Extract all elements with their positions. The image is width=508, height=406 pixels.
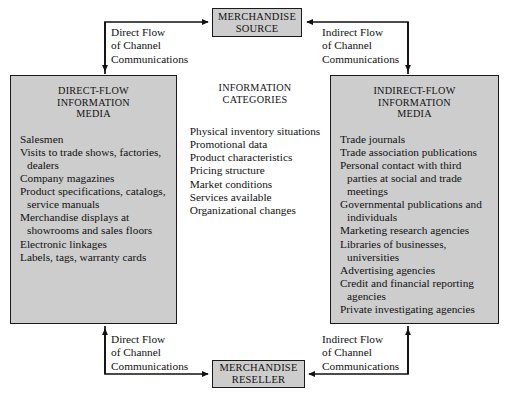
panel-direct-flow-information-media[interactable]: DIRECT-FLOW INFORMATION MEDIA Salesmen V… [10,75,177,324]
merchandise-source-line2: SOURCE [218,23,296,35]
flow-label-bottom-right: Indirect Flow of Channel Communications [322,333,399,373]
indirect-flow-media-list: Trade journals Trade association publica… [331,133,498,316]
flow-label-top-left: Direct Flow of Channel Communications [111,26,188,66]
panel-information-categories: INFORMATION CATEGORIES Physical inventor… [180,82,330,218]
list-item: Market conditions [190,178,321,191]
information-categories-list: Physical inventory situations Promotiona… [190,125,321,217]
panel-indirect-flow-information-media[interactable]: INDIRECT-FLOW INFORMATION MEDIA Trade jo… [330,75,499,324]
direct-flow-heading-line1: DIRECT-FLOW [11,85,176,97]
information-categories-heading-line1: INFORMATION [180,82,330,94]
list-item: Promotional data [190,138,321,151]
indirect-flow-heading: INDIRECT-FLOW INFORMATION MEDIA [331,85,498,120]
list-item: Marketing research agencies [340,224,492,237]
list-item: Private investigating agencies [340,303,492,316]
list-item: Physical inventory situations [190,125,321,138]
list-item: Electronic linkages [20,238,170,251]
list-item: Organizational changes [190,204,321,217]
merchandise-reseller-line1: MERCHANDISE [219,362,297,374]
list-item: Trade association publications [340,146,492,159]
information-categories-heading-line2: CATEGORIES [180,94,330,106]
direct-flow-heading-line3: MEDIA [11,108,176,120]
direct-flow-heading: DIRECT-FLOW INFORMATION MEDIA [11,85,176,120]
indirect-flow-heading-line2: INFORMATION [331,97,498,109]
list-item: Trade journals [340,133,492,146]
figure-caption [0,397,508,406]
list-item: Personal contact with third parties at s… [340,159,492,198]
diagram-canvas: MERCHANDISE SOURCE DIRECT-FLOW INFORMATI… [0,0,508,406]
list-item: Product characteristics [190,151,321,164]
list-item: Advertising agencies [340,264,492,277]
list-item: Credit and financial reporting agencies [340,277,492,303]
list-item: Services available [190,191,321,204]
flow-label-bottom-left: Direct Flow of Channel Communications [111,333,188,373]
direct-flow-media-list: Salesmen Visits to trade shows, factorie… [11,133,176,264]
merchandise-reseller-line2: RESELLER [219,374,297,386]
node-merchandise-source[interactable]: MERCHANDISE SOURCE [212,8,302,37]
list-item: Libraries of businesses, universities [340,238,492,264]
list-item: Pricing structure [190,164,321,177]
list-item: Visits to trade shows, factories, dealer… [20,146,170,172]
flow-label-top-right: Indirect Flow of Channel Communications [322,26,399,66]
direct-flow-heading-line2: INFORMATION [11,97,176,109]
list-item: Salesmen [20,133,170,146]
information-categories-heading: INFORMATION CATEGORIES [180,82,330,105]
list-item: Labels, tags, warranty cards [20,251,170,264]
indirect-flow-heading-line3: MEDIA [331,108,498,120]
list-item: Product specifications, catalogs, servic… [20,185,170,211]
indirect-flow-heading-line1: INDIRECT-FLOW [331,85,498,97]
merchandise-source-line1: MERCHANDISE [218,11,296,23]
list-item: Governmental publications and individual… [340,198,492,224]
list-item: Company magazines [20,172,170,185]
node-merchandise-reseller[interactable]: MERCHANDISE RESELLER [212,360,305,388]
list-item: Merchandise displays at showrooms and sa… [20,211,170,237]
